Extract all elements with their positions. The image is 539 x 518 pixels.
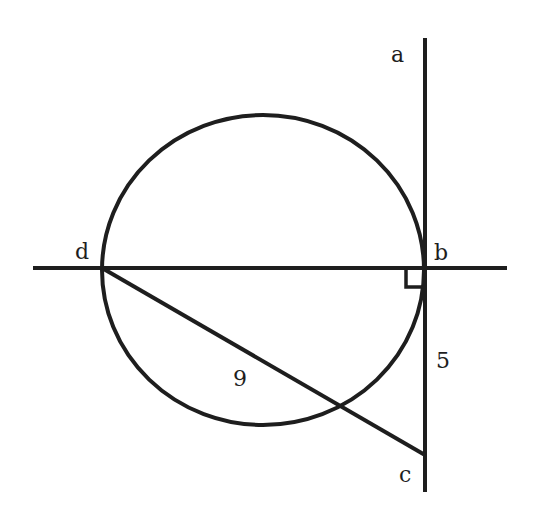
length-label-dc: 9 [233, 366, 247, 391]
point-label-b: b [434, 240, 448, 265]
point-label-d: d [75, 239, 89, 264]
point-label-a: a [391, 42, 404, 67]
point-label-c: c [399, 462, 411, 487]
length-label-bc: 5 [436, 348, 450, 373]
geometry-diagram: a b c d 9 5 [0, 0, 539, 518]
